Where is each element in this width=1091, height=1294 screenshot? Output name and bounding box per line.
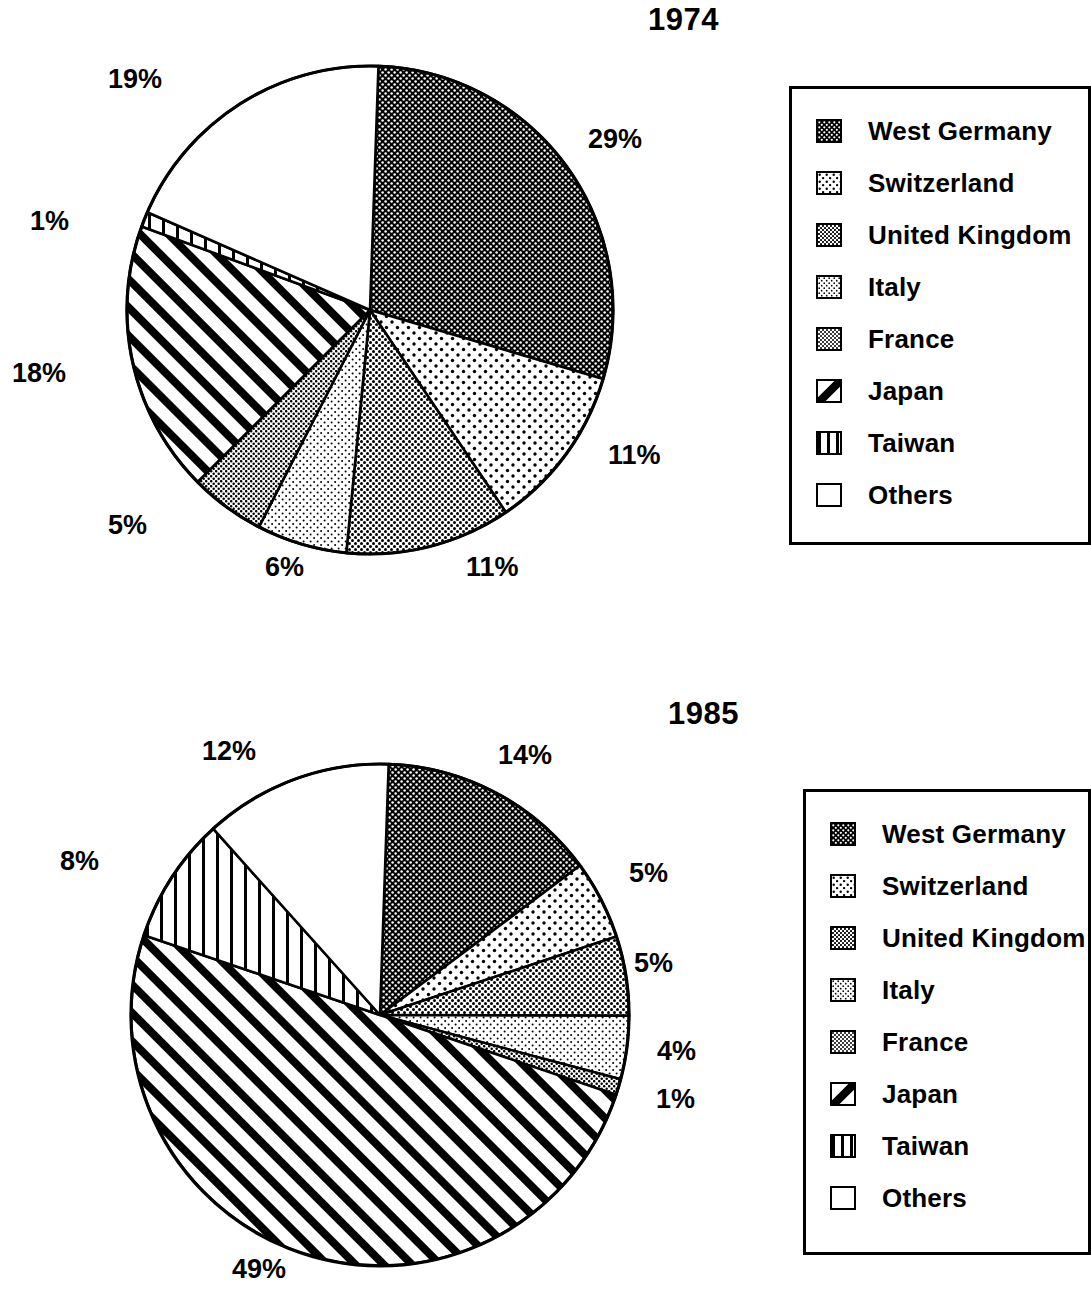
pie-1974-value-label: 18% [12,358,66,389]
legend-item-label: Taiwan [882,1131,969,1162]
pie-1974-slices [127,66,613,554]
pie-1985-value-label: 14% [498,740,552,771]
legend-item-1985[interactable]: Others [830,1172,1088,1224]
chart-title-1974: 1974 [648,2,719,38]
legend-item-1985[interactable]: Japan [830,1068,1088,1120]
legend-item-label: Italy [882,975,935,1006]
legend-list-1985: West GermanySwitzerlandUnited KingdomIta… [806,792,1088,1224]
legend-item-1985[interactable]: Switzerland [830,860,1088,912]
legend-item-label: Others [882,1183,967,1214]
swatch-others-icon [830,1186,856,1210]
legend-item-1974[interactable]: Taiwan [816,417,1088,469]
legend-item-1985[interactable]: France [830,1016,1088,1068]
swatch-italy-icon [816,275,842,299]
pie-1974-value-label: 5% [108,510,147,541]
legend-item-1974[interactable]: Japan [816,365,1088,417]
legend-item-label: Taiwan [868,428,955,459]
legend-item-label: West Germany [868,116,1052,147]
pie-1985-value-label: 4% [657,1036,696,1067]
pie-1985-slices [131,764,629,1266]
legend-item-label: United Kingdom [868,220,1072,251]
pie-1974-value-label: 6% [265,552,304,583]
legend-item-1985[interactable]: West Germany [830,808,1088,860]
pie-1985-value-label: 49% [232,1254,286,1285]
legend-item-1974[interactable]: United Kingdom [816,209,1088,261]
legend-item-1974[interactable]: West Germany [816,105,1088,157]
chart-title-1985: 1985 [668,696,739,732]
pie-1985-value-label: 12% [202,736,256,767]
pie-1974-value-label: 29% [588,124,642,155]
swatch-france-icon [830,1030,856,1054]
swatch-italy-icon [830,978,856,1002]
legend-item-label: France [868,324,954,355]
swatch-united-kingdom-icon [830,926,856,950]
legend-item-label: France [882,1027,968,1058]
swatch-switzerland-icon [816,171,842,195]
swatch-taiwan-icon [816,431,842,455]
legend-item-1974[interactable]: France [816,313,1088,365]
legend-item-label: Japan [868,376,944,407]
legend-item-label: Switzerland [868,168,1015,199]
pie-1974-value-label: 11% [608,440,661,471]
swatch-japan-icon [816,379,842,403]
pie-1974-value-label: 19% [108,64,162,95]
legend-item-1974[interactable]: Italy [816,261,1088,313]
legend-item-1985[interactable]: United Kingdom [830,912,1088,964]
swatch-switzerland-icon [830,874,856,898]
legend-item-label: Switzerland [882,871,1029,902]
legend-item-1985[interactable]: Taiwan [830,1120,1088,1172]
legend-item-label: United Kingdom [882,923,1086,954]
pie-1974-value-label: 1% [30,206,69,237]
legend-item-label: Others [868,480,953,511]
swatch-france-icon [816,327,842,351]
legend-item-label: Italy [868,272,921,303]
pie-chart-1974 [120,50,640,570]
pie-1974-value-label: 11% [466,552,519,583]
swatch-west-germany-icon [816,119,842,143]
legend-item-1974[interactable]: Others [816,469,1088,521]
pie-1985-value-label: 5% [634,948,673,979]
legend-item-1974[interactable]: Switzerland [816,157,1088,209]
legend-list-1974: West GermanySwitzerlandUnited KingdomIta… [792,89,1088,521]
legend-item-1985[interactable]: Italy [830,964,1088,1016]
pie-1985-value-label: 5% [629,858,668,889]
swatch-others-icon [816,483,842,507]
swatch-japan-icon [830,1082,856,1106]
swatch-taiwan-icon [830,1134,856,1158]
swatch-united-kingdom-icon [816,223,842,247]
legend-item-label: West Germany [882,819,1066,850]
legend-1974: West GermanySwitzerlandUnited KingdomIta… [789,86,1091,545]
legend-1985: West GermanySwitzerlandUnited KingdomIta… [803,789,1091,1255]
swatch-west-germany-icon [830,822,856,846]
legend-item-label: Japan [882,1079,958,1110]
pie-1985-value-label: 8% [60,846,99,877]
pie-1985-value-label: 1% [656,1084,695,1115]
pie-chart-1985 [118,750,648,1280]
